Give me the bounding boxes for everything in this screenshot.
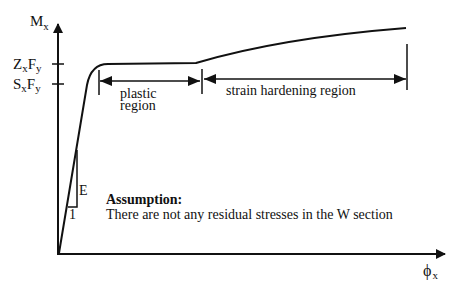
plastic-region-label-line2: region [120, 98, 156, 113]
x-axis: ϕx [57, 254, 445, 281]
y-axis: Mx ZxFy SxFy [13, 13, 64, 254]
moment-curvature-diagram: Mx ZxFy SxFy ϕx E 1 plastic region strai… [0, 0, 460, 284]
assumption-text: There are not any residual stresses in t… [106, 207, 393, 222]
assumption-title: Assumption: [106, 192, 182, 207]
y-tick-label-sxfy: SxFy [13, 76, 41, 94]
slope-label-e: E [79, 183, 88, 198]
strain-hardening-region-label: strain hardening region [226, 83, 356, 98]
x-axis-label: ϕx [423, 262, 438, 281]
slope-label-one: 1 [69, 207, 76, 222]
y-axis-label: Mx [30, 13, 49, 32]
y-tick-label-zxfy: ZxFy [13, 56, 42, 74]
